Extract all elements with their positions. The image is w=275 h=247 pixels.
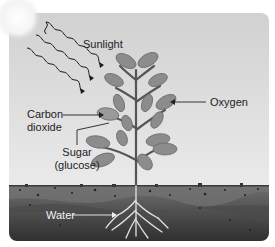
label-carbon-dioxide-line2: dioxide: [27, 121, 62, 133]
photosynthesis-diagram: Sunlight Oxygen Carbon dioxide Sugar (gl…: [0, 0, 275, 247]
label-sugar-line2: (glucose): [50, 159, 104, 171]
label-oxygen: Oxygen: [210, 96, 248, 108]
label-sunlight: Sunlight: [83, 38, 123, 50]
label-water: Water: [46, 209, 75, 221]
label-sugar-line1: Sugar: [53, 146, 101, 158]
label-carbon-dioxide-line1: Carbon: [27, 108, 63, 120]
